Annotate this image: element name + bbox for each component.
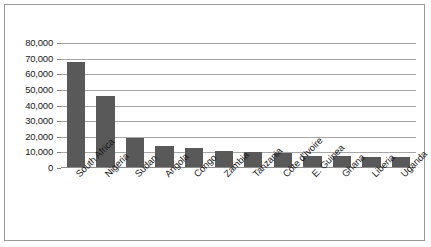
y-axis-tick-mark [57, 168, 61, 169]
bars-group [61, 43, 416, 168]
x-label-slot: Congo [179, 170, 209, 230]
y-axis-tick-label: 60,000 [25, 70, 53, 80]
bar-slot [209, 43, 239, 168]
y-axis-tick-label: 10,000 [25, 148, 53, 158]
plot-area [61, 43, 416, 168]
x-label-slot: Sudan [120, 170, 150, 230]
y-axis-tick-label: 30,000 [25, 116, 53, 126]
x-label-slot: E. Guinea [298, 170, 328, 230]
bar-slot [179, 43, 209, 168]
y-axis-tick-label: 40,000 [25, 101, 53, 111]
x-axis-category-labels: South AfricaNigeriaSudanAngolaCongoZambi… [61, 170, 416, 230]
y-axis-tick-label: 50,000 [25, 85, 53, 95]
chart-container: 80,00070,00060,00050,00040,00030,00020,0… [4, 4, 425, 241]
bar[interactable] [67, 62, 85, 168]
y-axis-tick-label: 70,000 [25, 54, 53, 64]
x-label-slot: Zambia [209, 170, 239, 230]
chart-plot-wrapper: 80,00070,00060,00050,00040,00030,00020,0… [5, 5, 424, 240]
x-label-slot: Ghana [327, 170, 357, 230]
bar-slot [61, 43, 91, 168]
y-axis-tick-label: 0 [48, 163, 53, 173]
bar-slot [150, 43, 180, 168]
bar-slot [386, 43, 416, 168]
x-label-slot: Liberia [357, 170, 387, 230]
bar-slot [357, 43, 387, 168]
x-label-slot: Nigeria [91, 170, 121, 230]
x-label-slot: Tanzania [238, 170, 268, 230]
y-axis-tick-labels: 80,00070,00060,00050,00040,00030,00020,0… [5, 43, 57, 168]
x-label-slot: Angola [150, 170, 180, 230]
x-label-slot: Côte d'Ivoire [268, 170, 298, 230]
x-label-slot: Uganda [386, 170, 416, 230]
y-axis-tick-label: 80,000 [25, 38, 53, 48]
bar-slot [120, 43, 150, 168]
x-label-slot: South Africa [61, 170, 91, 230]
y-axis-tick-label: 20,000 [25, 132, 53, 142]
